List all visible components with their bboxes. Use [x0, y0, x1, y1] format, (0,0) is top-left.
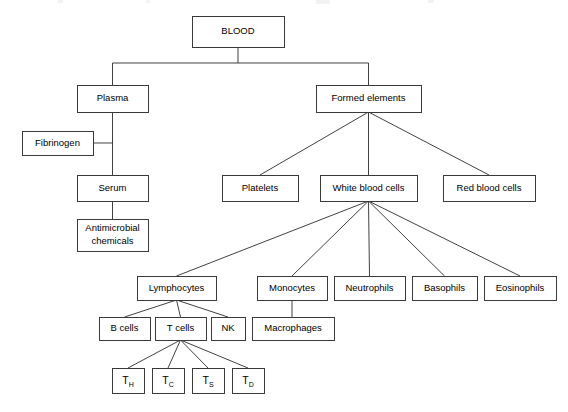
node-label-blood: BLOOD	[221, 25, 254, 36]
node-wbc[interactable]: White blood cells	[321, 176, 418, 202]
node-label-lymphocytes: Lymphocytes	[149, 282, 205, 293]
node-platelets[interactable]: Platelets	[223, 176, 299, 202]
node-eosinophils[interactable]: Eosinophils	[485, 277, 557, 301]
node-lymphocytes[interactable]: Lymphocytes	[138, 277, 217, 301]
node-ts[interactable]: TS	[193, 369, 225, 394]
node-label-plasma: Plasma	[97, 92, 129, 103]
node-formed[interactable]: Formed elements	[317, 86, 422, 113]
connector-wbc-eosinophils	[369, 201, 521, 276]
diagram-canvas: BLOODPlasmaFormed elementsFibrinogenSeru…	[0, 0, 568, 412]
node-label-serum: Serum	[99, 182, 127, 193]
node-fibrinogen[interactable]: Fibrinogen	[23, 132, 94, 156]
connector-wbc-monocytes	[292, 201, 369, 276]
node-monocytes[interactable]: Monocytes	[258, 277, 328, 301]
node-label-formed: Formed elements	[332, 92, 406, 103]
node-label-fibrinogen: Fibrinogen	[35, 137, 80, 148]
node-label-antimicrobial-line2: chemicals	[91, 235, 133, 246]
node-neutrophils[interactable]: Neutrophils	[335, 277, 406, 301]
connector-tcells-tc	[168, 340, 181, 368]
node-plasma[interactable]: Plasma	[78, 86, 149, 113]
node-label-neutrophils: Neutrophils	[345, 282, 393, 293]
node-label-macrophages: Macrophages	[264, 322, 322, 333]
node-label-basophils: Basophils	[424, 282, 465, 293]
node-bcells[interactable]: B cells	[100, 318, 151, 341]
node-label-antimicrobial-line1: Antimicrobial	[85, 222, 139, 233]
node-serum[interactable]: Serum	[78, 176, 149, 202]
node-label-monocytes: Monocytes	[269, 282, 315, 293]
connector-blood-split	[113, 47, 369, 85]
node-basophils[interactable]: Basophils	[413, 277, 478, 301]
connector-lymph-tcells	[177, 300, 181, 317]
connector-tcells-td	[181, 340, 249, 368]
connector-wbc-neutrophils	[369, 201, 370, 276]
node-label-eosinophils: Eosinophils	[496, 282, 545, 293]
connector-tcells-ts	[181, 340, 209, 368]
node-tc[interactable]: TC	[153, 369, 185, 394]
node-label-bcells: B cells	[111, 322, 139, 333]
node-nk[interactable]: NK	[212, 318, 246, 341]
connector-tcells-th	[128, 340, 181, 368]
connector-lymph-nk	[177, 300, 229, 317]
node-label-rbc: Red blood cells	[457, 182, 522, 193]
node-label-platelets: Platelets	[242, 182, 279, 193]
node-macrophages[interactable]: Macrophages	[253, 318, 335, 341]
node-label-nk: NK	[221, 322, 235, 333]
blood-hierarchy-diagram: BLOODPlasmaFormed elementsFibrinogenSeru…	[0, 0, 568, 412]
node-layer: BLOODPlasmaFormed elementsFibrinogenSeru…	[23, 17, 557, 394]
connector-formed-platelets	[260, 112, 369, 175]
node-rbc[interactable]: Red blood cells	[444, 176, 536, 202]
node-blood[interactable]: BLOOD	[193, 17, 285, 48]
node-tcells[interactable]: T cells	[156, 318, 207, 341]
node-label-tcells: T cells	[167, 322, 195, 333]
node-label-wbc: White blood cells	[333, 182, 405, 193]
connector-wbc-lymphocytes	[177, 201, 369, 276]
connector-formed-rbc	[369, 112, 490, 175]
node-th[interactable]: TH	[113, 369, 145, 394]
node-antimicrobial[interactable]: Antimicrobialchemicals	[78, 220, 149, 252]
connector-lymph-bcells	[125, 300, 177, 317]
connector-wbc-basophils	[369, 201, 445, 276]
node-td[interactable]: TD	[233, 369, 265, 394]
